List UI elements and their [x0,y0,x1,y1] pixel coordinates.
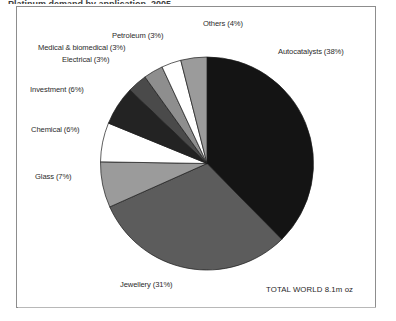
total-world-note: TOTAL WORLD 8.1m oz [266,285,353,294]
slice-label-jewellery: Jewellery (31%) [120,280,173,289]
slice-label-investment: Investment (6%) [30,85,84,94]
slice-label-glass: Glass (7%) [35,172,72,181]
pie-slice-group [100,57,313,270]
slice-label-medical: Medical & biomedical (3%) [38,43,125,52]
chart-page: Platinum demand by application, 2005 Oth… [0,0,396,321]
slice-label-chemical: Chemical (6%) [31,125,80,134]
slice-label-electrical: Electrical (3%) [62,55,109,64]
slice-label-petroleum: Petroleum (3%) [112,31,163,40]
slice-label-others: Others (4%) [203,19,243,28]
slice-label-autocatalysts: Autocatalysts (38%) [278,47,344,56]
